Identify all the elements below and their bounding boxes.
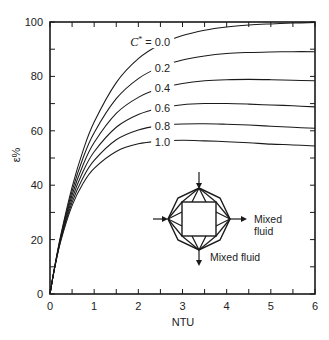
tick-labels: 0123456020406080100 <box>25 16 318 312</box>
curve-c-0-4 <box>50 79 315 294</box>
curve-label-c-0-4: 0.4 <box>155 82 170 94</box>
right-outlet-label: Mixed fluid <box>254 213 285 237</box>
curve-label-c-0-2: 0.2 <box>155 62 170 74</box>
outlet-arrow-right-icon <box>230 216 247 222</box>
curve-value: 1.0 <box>155 136 170 148</box>
x-tick-label: 0 <box>47 300 53 312</box>
effectiveness-chart: C* = 0.00.20.40.60.81.0 0123456020406080… <box>0 0 329 340</box>
inlet-arrow-left-icon <box>153 216 168 222</box>
right-outlet-label-line1: Mixed <box>254 213 282 225</box>
curve-value: 0.0 <box>155 36 170 48</box>
x-tick-label: 2 <box>135 300 141 312</box>
right-outlet-label-line2: fluid <box>254 225 273 237</box>
x-tick-label: 6 <box>312 300 318 312</box>
inlet-arrow-top-icon <box>196 172 202 189</box>
core-square <box>182 202 216 236</box>
x-tick-label: 3 <box>179 300 185 312</box>
outlet-arrow-bottom-icon <box>196 250 202 266</box>
y-tick-label: 0 <box>37 288 43 300</box>
curve-label-c-0-6: 0.6 <box>155 102 170 114</box>
x-tick-label: 5 <box>268 300 274 312</box>
curve-label-c-0-0: C* = 0.0 <box>130 35 170 49</box>
x-tick-label: 1 <box>91 300 97 312</box>
x-tick-label: 4 <box>224 300 230 312</box>
effectiveness-curves <box>50 23 315 294</box>
y-tick-label: 60 <box>31 125 43 137</box>
curve-value: 0.8 <box>155 120 170 132</box>
y-tick-label: 100 <box>25 16 43 28</box>
curve-label-c-0-8: 0.8 <box>155 120 170 132</box>
y-tick-label: 40 <box>31 179 43 191</box>
curve-value: 0.6 <box>155 102 170 114</box>
x-axis-label: NTU <box>172 316 195 328</box>
curve-value: 0.4 <box>155 82 170 94</box>
exchanger-schematic: Mixed fluid Mixed fluid <box>153 172 285 266</box>
y-tick-label: 20 <box>31 234 43 246</box>
y-axis-label: ε% <box>10 147 22 162</box>
curve-value: 0.2 <box>155 62 170 74</box>
bottom-outlet-label: Mixed fluid <box>210 251 260 263</box>
y-tick-label: 80 <box>31 70 43 82</box>
parameter-equals: = <box>142 36 155 48</box>
curve-label-c-1-0: 1.0 <box>155 136 170 148</box>
